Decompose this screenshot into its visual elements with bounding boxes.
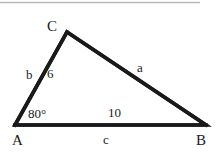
vertex-label-c: C — [47, 19, 57, 34]
vertex-label-a: A — [12, 133, 23, 148]
side-length-c-value: 10 — [108, 106, 121, 119]
side-label-c: c — [103, 133, 109, 146]
side-label-b: b — [26, 68, 33, 81]
vertex-label-b: B — [196, 133, 206, 148]
side-length-b-value: 6 — [47, 67, 54, 80]
angle-a-value: 80° — [28, 107, 46, 120]
triangle-figure: C A B a b c 6 10 80° — [0, 0, 216, 164]
side-label-a: a — [137, 61, 143, 74]
